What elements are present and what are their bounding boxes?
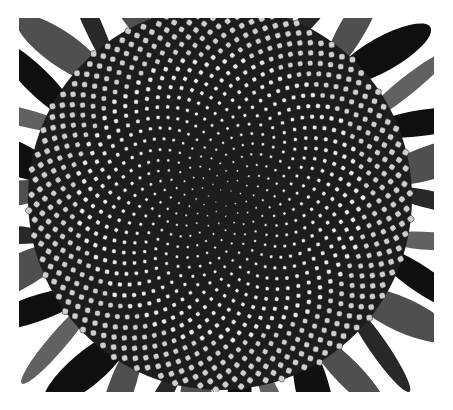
sunflower-photo	[19, 18, 434, 392]
sunflower-image	[19, 18, 434, 392]
